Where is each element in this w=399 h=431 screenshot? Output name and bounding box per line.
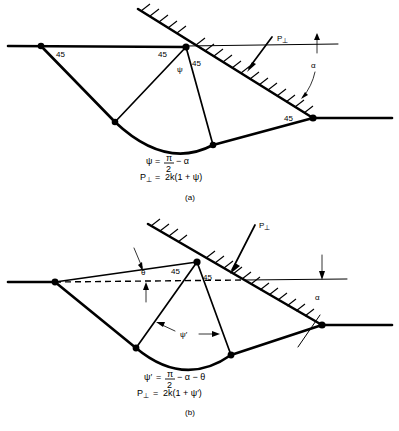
panel-a-slipline-left-inner bbox=[115, 47, 186, 122]
panel-b-alpha-label: α bbox=[315, 293, 320, 302]
panel-b-surface-right bbox=[245, 279, 347, 280]
panel-a-slipline-right bbox=[213, 118, 313, 145]
svg-text:ψ: ψ bbox=[146, 156, 152, 166]
panel-b-equation-force: P⊥ = 2k(1 + ψ′) bbox=[137, 388, 202, 399]
panel-b-slipline-left-outer bbox=[55, 282, 136, 348]
panel-b-fan-arc bbox=[136, 348, 231, 370]
panel-b-node-right bbox=[318, 321, 325, 328]
panel-a-angle-apex-right-label: 45 bbox=[192, 59, 201, 68]
panel-b-theta-label: θ bbox=[141, 268, 146, 277]
panel-b-reference-dashed bbox=[55, 280, 245, 282]
slip-line-field-figure: P⊥ α 45 45 45 45 ψ ψ = π 2 bbox=[0, 0, 399, 431]
figure-root: P⊥ α 45 45 45 45 ψ ψ = π 2 bbox=[0, 0, 399, 431]
svg-text:− α − θ: − α − θ bbox=[177, 372, 205, 382]
panel-a-caption: (a) bbox=[185, 193, 195, 202]
panel-b-node-apex bbox=[193, 258, 200, 265]
svg-text:=: = bbox=[155, 172, 160, 182]
panel-a-node-right bbox=[309, 114, 316, 121]
panel-a-force-label: P⊥ bbox=[277, 34, 288, 44]
panel-a-psi-label: ψ bbox=[177, 65, 183, 74]
panel-b-caption: (b) bbox=[185, 408, 195, 417]
panel-a-slipline-left-outer bbox=[41, 46, 115, 122]
panel-a: P⊥ α 45 45 45 45 ψ ψ = π 2 bbox=[8, 4, 392, 202]
panel-b-alpha-indicator bbox=[319, 255, 325, 280]
panel-a-alpha-label: α bbox=[311, 61, 316, 70]
svg-text:π: π bbox=[166, 153, 172, 163]
panel-b-psi-prime-indicator bbox=[156, 322, 220, 337]
panel-a-equation-psi: ψ = π 2 − α bbox=[146, 153, 189, 174]
panel-b-angle-apex-left-label: 45 bbox=[171, 267, 180, 276]
panel-b-node-bottom-left bbox=[133, 345, 140, 352]
svg-text:P⊥: P⊥ bbox=[137, 388, 149, 399]
svg-text:2k(1 + ψ): 2k(1 + ψ) bbox=[165, 172, 202, 182]
panel-a-angle-left-label: 45 bbox=[56, 50, 65, 59]
panel-b-psi-prime-label: ψ′ bbox=[180, 330, 188, 339]
svg-text:2k(1 + ψ′): 2k(1 + ψ′) bbox=[163, 388, 202, 398]
panel-a-force-arrow bbox=[247, 37, 272, 72]
panel-b-force-arrow bbox=[230, 225, 255, 274]
panel-a-surface-right bbox=[186, 44, 338, 46]
svg-text:π: π bbox=[167, 369, 173, 379]
panel-a-angle-right-label: 45 bbox=[284, 114, 293, 123]
panel-a-node-apex bbox=[182, 43, 189, 50]
svg-text:− α: − α bbox=[176, 156, 189, 166]
svg-text:=: = bbox=[155, 156, 160, 166]
panel-a-node-bottom-left bbox=[112, 119, 119, 126]
panel-a-angle-apex-left-label: 45 bbox=[158, 50, 167, 59]
panel-b-force-label: P⊥ bbox=[259, 221, 270, 231]
panel-b-equation-psi: ψ′ = π 2 − α − θ bbox=[144, 369, 205, 390]
panel-a-surface-left bbox=[8, 46, 186, 47]
svg-text:ψ′: ψ′ bbox=[144, 372, 152, 382]
panel-b-node-left bbox=[52, 279, 59, 286]
panel-b-angle-apex-right-label: 45 bbox=[203, 273, 212, 282]
panel-a-fan-arc bbox=[115, 122, 213, 154]
svg-text:=: = bbox=[153, 388, 158, 398]
svg-text:=: = bbox=[156, 372, 161, 382]
panel-a-equation-force: P⊥ = 2k(1 + ψ) bbox=[140, 172, 202, 183]
panel-a-node-left bbox=[38, 43, 45, 50]
panel-b: P⊥ θ α ψ′ bbox=[8, 219, 392, 417]
panel-b-node-bottom-right bbox=[228, 352, 235, 359]
svg-text:P⊥: P⊥ bbox=[140, 172, 152, 183]
panel-b-slipline-right bbox=[231, 325, 322, 355]
panel-a-node-bottom-right bbox=[210, 142, 217, 149]
